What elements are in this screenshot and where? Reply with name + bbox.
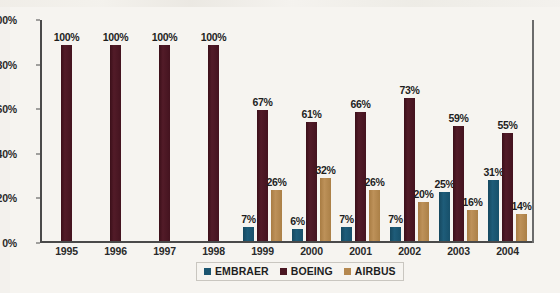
y-axis-tick-0: 0% xyxy=(0,237,17,249)
x-axis-label-2004: 2004 xyxy=(483,245,532,257)
bar-value-label: 7% xyxy=(241,213,256,225)
bar-fill xyxy=(369,190,380,241)
bar-group-1999: 7%67%26% xyxy=(238,20,287,241)
y-axis-tick-mark-40 xyxy=(36,153,40,154)
y-axis-tick-100: 100% xyxy=(0,14,17,26)
x-axis-label-2003: 2003 xyxy=(434,245,483,257)
bar-value-label: 55% xyxy=(497,119,517,131)
legend-label: BOEING xyxy=(291,265,333,277)
bar-value-label: 31% xyxy=(483,166,503,178)
bar-group-1995: 100% xyxy=(42,20,91,241)
legend-item-embraer[interactable]: EMBRAER xyxy=(204,265,269,277)
y-axis-tick-mark-60 xyxy=(36,109,40,110)
bar-value-label: 73% xyxy=(399,84,419,96)
x-axis-label-2001: 2001 xyxy=(336,245,385,257)
bar-value-label: 67% xyxy=(252,96,272,108)
bar-group-1997: 100% xyxy=(140,20,189,241)
legend-label: AIRBUS xyxy=(355,265,396,277)
bar-fill xyxy=(320,178,331,241)
bar-fill xyxy=(341,227,352,241)
plot-right-border xyxy=(532,20,534,243)
bar-fill xyxy=(110,45,121,241)
x-axis-label-2002: 2002 xyxy=(385,245,434,257)
bar-fill xyxy=(159,45,170,241)
bar-fill xyxy=(243,227,254,241)
y-axis-tick-40: 40% xyxy=(0,148,17,160)
bar-chart: 0%20%40%60%80%100% 100%100%100%100%7%67%… xyxy=(0,0,560,293)
y-axis-tick-20: 20% xyxy=(0,192,17,204)
bar-group-2000: 6%61%32% xyxy=(287,20,336,241)
bar-value-label: 25% xyxy=(434,178,454,190)
bar-fill xyxy=(453,126,464,241)
bar-group-1998: 100% xyxy=(189,20,238,241)
bar-fill xyxy=(208,45,219,241)
bar-value-label: 20% xyxy=(413,188,433,200)
bar-value-label: 100% xyxy=(152,31,178,43)
y-axis-tick-80: 80% xyxy=(0,59,17,71)
bar-fill xyxy=(404,98,415,241)
bar-fill xyxy=(418,202,429,241)
bar-fill xyxy=(467,210,478,241)
bar-value-label: 7% xyxy=(339,213,354,225)
x-axis-label-1998: 1998 xyxy=(189,245,238,257)
legend-item-boeing[interactable]: BOEING xyxy=(280,265,333,277)
bar-value-label: 61% xyxy=(301,108,321,120)
legend-label: EMBRAER xyxy=(215,265,269,277)
bar-value-label: 100% xyxy=(103,31,129,43)
bar-fill xyxy=(502,133,513,241)
bar-group-2003: 25%59%16% xyxy=(434,20,483,241)
legend-swatch-icon xyxy=(204,268,211,275)
bar-fill xyxy=(390,227,401,241)
legend-item-airbus[interactable]: AIRBUS xyxy=(344,265,396,277)
bar-groups: 100%100%100%100%7%67%26%6%61%32%7%66%26%… xyxy=(42,20,532,241)
y-axis-tick-mark-0 xyxy=(36,243,40,244)
bar-group-2004: 31%55%14% xyxy=(483,20,532,241)
y-axis-tick-mark-100 xyxy=(36,20,40,21)
bar-value-label: 26% xyxy=(364,176,384,188)
x-axis-label-1999: 1999 xyxy=(238,245,287,257)
bar-value-label: 32% xyxy=(315,164,335,176)
bar-fill xyxy=(306,122,317,241)
bar-fill xyxy=(516,214,527,241)
bar-group-2001: 7%66%26% xyxy=(336,20,385,241)
bar-value-label: 100% xyxy=(54,31,80,43)
legend-swatch-icon xyxy=(344,268,351,275)
x-axis-label-1995: 1995 xyxy=(42,245,91,257)
bar-value-label: 6% xyxy=(290,215,305,227)
legend-swatch-icon xyxy=(280,268,287,275)
bar-value-label: 59% xyxy=(448,112,468,124)
y-axis-tick-mark-80 xyxy=(36,64,40,65)
chart-legend: EMBRAERBOEINGAIRBUS xyxy=(196,262,404,281)
bar-value-label: 66% xyxy=(350,98,370,110)
bar-fill xyxy=(61,45,72,241)
y-axis-tick-mark-20 xyxy=(36,198,40,199)
bar-fill xyxy=(292,229,303,241)
bar-value-label: 7% xyxy=(388,213,403,225)
bar-value-label: 16% xyxy=(462,196,482,208)
bar-fill xyxy=(439,192,450,241)
bar-fill xyxy=(488,180,499,241)
bar-group-2002: 7%73%20% xyxy=(385,20,434,241)
x-axis-label-1996: 1996 xyxy=(91,245,140,257)
x-axis-label-1997: 1997 xyxy=(140,245,189,257)
y-axis-tick-60: 60% xyxy=(0,103,17,115)
x-axis-tick-labels: 1995199619971998199920002001200220032004 xyxy=(42,245,532,257)
bar-group-1996: 100% xyxy=(91,20,140,241)
bar-value-label: 26% xyxy=(266,176,286,188)
bar-value-label: 14% xyxy=(511,200,531,212)
x-axis-line xyxy=(40,241,534,243)
bar-fill xyxy=(271,190,282,241)
x-axis-label-2000: 2000 xyxy=(287,245,336,257)
bar-value-label: 100% xyxy=(201,31,227,43)
